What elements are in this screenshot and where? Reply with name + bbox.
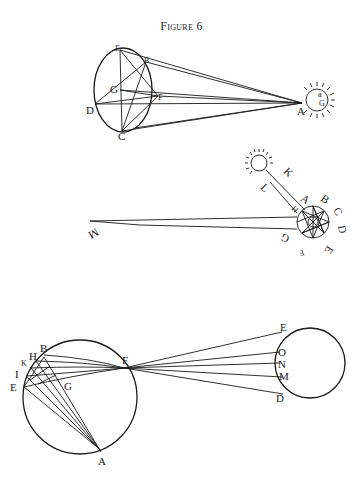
label-F: F xyxy=(122,354,128,366)
label-C: C xyxy=(331,205,345,217)
svg-text:a: a xyxy=(318,90,322,99)
label-K: K xyxy=(282,165,296,179)
middle-diagram: K L H A B C D E F G M xyxy=(86,149,349,258)
label-G: G xyxy=(110,83,118,95)
sun-icon: a G xyxy=(304,82,335,118)
small-sun-icon xyxy=(245,149,273,174)
label-K: K xyxy=(21,359,27,368)
label-E-right: E xyxy=(280,321,287,333)
label-E: E xyxy=(115,44,120,53)
label-D: D xyxy=(276,392,284,404)
left-circle xyxy=(23,340,137,454)
label-A: A xyxy=(98,455,106,467)
figure-canvas: a G E B G F D C A xyxy=(0,0,363,490)
label-H: H xyxy=(29,350,37,362)
label-B: B xyxy=(144,56,149,65)
label-D: D xyxy=(86,104,94,116)
label-E: E xyxy=(10,381,17,393)
label-B: B xyxy=(40,342,47,354)
bottom-diagram: B H K I E G A F E O N M D xyxy=(10,321,345,467)
label-A: A xyxy=(297,105,305,117)
label-N: N xyxy=(278,358,286,370)
top-diagram: a G E B G F D C A xyxy=(86,44,335,142)
label-F: F xyxy=(158,93,163,102)
octagram-circle xyxy=(297,206,329,238)
label-M: M xyxy=(279,370,289,382)
label-I: I xyxy=(15,368,19,380)
label-F: F xyxy=(298,248,306,258)
label-M: M xyxy=(86,226,101,241)
svg-text:G: G xyxy=(319,99,325,108)
label-E: E xyxy=(322,244,336,257)
label-L: L xyxy=(259,181,272,194)
label-G: G xyxy=(279,231,291,245)
label-G: G xyxy=(64,380,72,392)
label-C: C xyxy=(118,130,125,142)
label-O: O xyxy=(278,346,286,358)
label-A: A xyxy=(299,192,312,206)
label-B: B xyxy=(319,192,332,206)
label-D: D xyxy=(336,224,349,234)
